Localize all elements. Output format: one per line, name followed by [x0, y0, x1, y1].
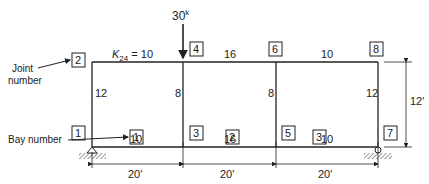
svg-text:20': 20'	[220, 168, 234, 180]
svg-text:6: 6	[272, 43, 278, 55]
svg-text:10: 10	[321, 133, 333, 145]
svg-text:8: 8	[268, 87, 274, 99]
svg-text:12': 12'	[410, 95, 424, 107]
svg-text:2: 2	[229, 131, 235, 143]
svg-text:20': 20'	[128, 168, 142, 180]
stiffness-k24: K24 = 10	[112, 48, 153, 63]
svg-text:20': 20'	[318, 168, 332, 180]
svg-text:8: 8	[175, 87, 181, 99]
svg-text:1: 1	[133, 131, 139, 143]
svg-text:3: 3	[193, 127, 199, 139]
load-arrow: 30k	[172, 8, 190, 58]
svg-text:3: 3	[316, 131, 322, 143]
svg-text:16: 16	[224, 48, 236, 60]
svg-text:7: 7	[387, 127, 393, 139]
svg-text:number: number	[8, 75, 43, 86]
dimension-lines	[92, 62, 412, 168]
frame-diagram: 30k 12 34 56 78 K24 = 10 16 10 10 16 10 …	[0, 0, 429, 184]
svg-text:10: 10	[321, 48, 333, 60]
load-label: 30k	[172, 8, 190, 23]
svg-text:4: 4	[193, 43, 199, 55]
svg-text:12: 12	[366, 87, 378, 99]
svg-text:Joint: Joint	[12, 63, 33, 74]
svg-text:1: 1	[75, 127, 81, 139]
svg-text:12: 12	[95, 87, 107, 99]
svg-text:2: 2	[75, 54, 81, 66]
pin-support	[79, 147, 106, 159]
svg-text:8: 8	[373, 43, 379, 55]
svg-text:5: 5	[285, 127, 291, 139]
svg-text:Bay number: Bay number	[8, 134, 63, 145]
